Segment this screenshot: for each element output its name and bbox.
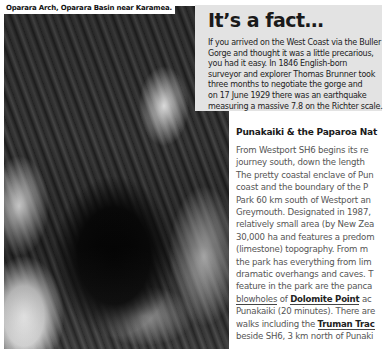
fact-line: you had it easy. In 1846 English-born (208, 59, 387, 70)
fact-title: It’s a fact… (208, 9, 323, 31)
fact-line: on 17 June 1929 there was an earthquake (208, 91, 387, 102)
blowholes-term: blowholes (236, 294, 277, 305)
article-body: From Westport SH6 begins its re journey … (236, 144, 387, 343)
fact-line: If you arrived on the West Coast via the… (208, 38, 387, 49)
article-line: From Westport SH6 begins its re (236, 144, 387, 156)
article-line-blowholes: blowholes of Dolomite Point ac (236, 293, 387, 305)
article-line: (limestone) topography. From m (236, 243, 387, 255)
fact-line: surveyor and explorer Thomas Brunner too… (208, 70, 387, 81)
article-line: coast and the boundary of the P (236, 181, 387, 193)
article-line: The pretty coastal enclave of Pun (236, 169, 387, 181)
article-line: feature in the park are the panca (236, 280, 387, 292)
article-section: Punakaiki & the Paparoa Nat From Westpor… (236, 126, 387, 343)
article-line: Punakaiki (20 minutes). There are (236, 305, 387, 317)
text-ac: ac (359, 294, 371, 304)
dolomite-point-link[interactable]: Dolomite Point (290, 294, 359, 305)
article-line: journey south, down the length (236, 156, 387, 168)
fact-line: Gorge and thought it was a little precar… (208, 49, 387, 60)
fact-body: If you arrived on the West Coast via the… (208, 38, 387, 112)
truman-track-link[interactable]: Truman Trac (318, 319, 375, 330)
text-walks: walks including the (236, 319, 318, 329)
article-line: relatively small area (by New Zea (236, 218, 387, 230)
article-line: dramatic overhangs and caves. T (236, 268, 387, 280)
photo-caption: Oparara Arch, Oparara Basin near Karamea… (4, 3, 175, 14)
article-line: beside SH6, 3 km north of Punaki (236, 330, 387, 342)
fact-line: three months to negotiate the gorge and (208, 80, 387, 91)
article-line: the park has everything from lim (236, 256, 387, 268)
article-title: Punakaiki & the Paparoa Nat (236, 126, 387, 138)
article-line: Greymouth. Designated in 1987, (236, 206, 387, 218)
text-of: of (277, 294, 290, 304)
fact-box: It’s a fact… If you arrived on the West … (195, 5, 382, 111)
fact-line: measuring a massive 7.8 on the Richter s… (208, 102, 387, 113)
article-line: 30,000 ha and features a predom (236, 231, 387, 243)
article-line-truman: walks including the Truman Trac (236, 318, 387, 330)
article-line: Park 60 km south of Westport an (236, 194, 387, 206)
